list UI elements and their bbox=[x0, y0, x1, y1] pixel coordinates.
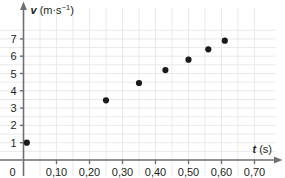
y-axis-tick-label: 4 bbox=[10, 85, 16, 97]
x-axis-tick-label: 0,50 bbox=[178, 166, 199, 178]
y-axis-tick-label: 5 bbox=[10, 68, 16, 80]
x-axis-tick-label: 0,20 bbox=[79, 166, 100, 178]
y-axis-tick-labels: 1234567 bbox=[10, 33, 16, 149]
data-point bbox=[222, 38, 228, 44]
y-axis-tick-label: 1 bbox=[10, 137, 16, 149]
data-point bbox=[205, 46, 211, 52]
data-point bbox=[24, 140, 30, 146]
data-point bbox=[162, 67, 168, 73]
chart-canvas: 1234567 00,100,200,300,400,500,600,70 v(… bbox=[0, 0, 285, 178]
x-axis-tick-label: 0,70 bbox=[244, 166, 265, 178]
x-axis-tick-label: 0,40 bbox=[145, 166, 166, 178]
y-axis-tick-label: 2 bbox=[10, 119, 16, 131]
x-axis-tick-label: 0 bbox=[9, 166, 15, 178]
y-axis-tick-label: 7 bbox=[10, 33, 16, 45]
data-point bbox=[185, 57, 191, 63]
x-axis-tick-label: 0,60 bbox=[211, 166, 232, 178]
y-axis-tick-label: 6 bbox=[10, 50, 16, 62]
data-point bbox=[103, 97, 109, 103]
y-axis-tick-label: 3 bbox=[10, 102, 16, 114]
x-axis-title: t(s) bbox=[253, 143, 273, 155]
x-axis-tick-label: 0,30 bbox=[112, 166, 133, 178]
data-point bbox=[136, 80, 142, 86]
x-axis-tick-label: 0,10 bbox=[46, 166, 67, 178]
scatter-chart: 1234567 00,100,200,300,400,500,600,70 v(… bbox=[0, 0, 285, 178]
